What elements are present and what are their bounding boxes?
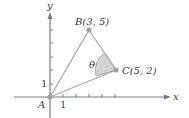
segment-AB [50,30,89,97]
point-C [113,67,118,72]
x-axis-label: x [173,91,179,102]
y-axis-label: y [46,0,53,11]
coordinate-diagram: y x 1 1 A B(3, 5) C(5, 2) θ [0,0,189,118]
y-tick-label: 1 [41,78,47,89]
angle-theta-label: θ [89,59,95,70]
point-B [86,27,91,32]
x-tick-label: 1 [60,99,66,110]
y-axis-arrow-icon [48,12,53,19]
point-A-label: A [37,99,45,110]
x-axis-arrow-icon [164,95,171,100]
point-A [47,94,52,99]
point-C-label: C(5, 2) [122,65,157,76]
point-B-label: B(3, 5) [74,16,109,27]
segment-AC [50,70,116,97]
